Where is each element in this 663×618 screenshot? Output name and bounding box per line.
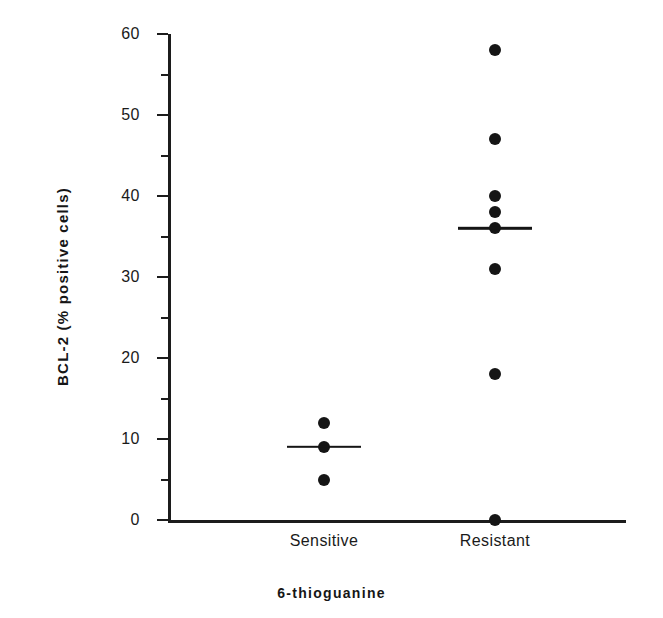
y-tick-minor xyxy=(161,317,168,319)
y-axis-line xyxy=(168,34,171,522)
x-axis-line xyxy=(168,520,626,523)
chart-figure: BCL-2 (% positive cells) 0102030405060 S… xyxy=(0,0,663,618)
y-tick-label: 40 xyxy=(80,187,140,205)
y-tick-label: 30 xyxy=(80,268,140,286)
y-tick-label: 0 xyxy=(80,511,140,529)
y-tick-label: 60 xyxy=(80,25,140,43)
y-axis-title: BCL-2 (% positive cells) xyxy=(54,137,71,437)
y-tick-minor xyxy=(161,236,168,238)
y-tick-label: 10 xyxy=(80,430,140,448)
y-tick-major xyxy=(157,195,168,197)
y-tick-minor xyxy=(161,398,168,400)
data-point xyxy=(489,263,501,275)
median-bar xyxy=(287,446,361,448)
y-tick-major xyxy=(157,33,168,35)
y-tick-minor xyxy=(161,74,168,76)
plot-area: 0102030405060 SensitiveResistant xyxy=(168,34,626,522)
y-tick-major xyxy=(157,114,168,116)
y-tick-major xyxy=(157,357,168,359)
data-point xyxy=(318,417,330,429)
data-point xyxy=(489,190,501,202)
data-point xyxy=(318,474,330,486)
y-tick-minor xyxy=(161,155,168,157)
data-point xyxy=(489,44,501,56)
category-label-resistant: Resistant xyxy=(460,532,530,550)
y-tick-major xyxy=(157,519,168,521)
category-label-sensitive: Sensitive xyxy=(290,532,359,550)
data-point xyxy=(489,206,501,218)
y-tick-minor xyxy=(161,479,168,481)
y-tick-major xyxy=(157,438,168,440)
data-point xyxy=(489,514,501,526)
x-axis-title: 6-thioguanine xyxy=(0,585,663,601)
y-tick-label: 20 xyxy=(80,349,140,367)
data-point xyxy=(489,133,501,145)
y-tick-major xyxy=(157,276,168,278)
y-tick-label: 50 xyxy=(80,106,140,124)
data-point xyxy=(489,368,501,380)
median-bar xyxy=(458,227,532,229)
